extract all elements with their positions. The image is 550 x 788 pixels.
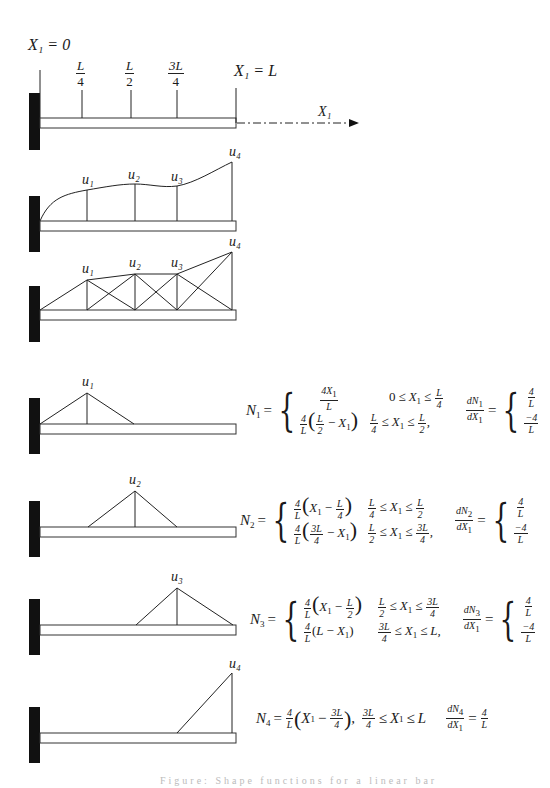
- equals-sign: =: [468, 710, 476, 727]
- node-label-u3: u₃: [171, 569, 183, 585]
- dn2-dx1: dN2dX1: [455, 505, 473, 536]
- left-brace: {: [273, 501, 290, 541]
- tick-den: 4: [173, 74, 180, 89]
- node-label-u4: u₄: [229, 144, 241, 160]
- n2-case-2-expr: 4L(3L4−X1): [293, 520, 357, 546]
- node-label-u2: u₂: [129, 255, 141, 271]
- dn4-value: 4L: [481, 707, 488, 730]
- fixed-wall: [29, 707, 40, 763]
- equals-sign: =: [477, 512, 485, 529]
- label-x1-axis: X₁: [318, 104, 331, 120]
- tick-num: L: [125, 58, 134, 74]
- fixed-wall: [29, 196, 40, 252]
- n2-case-2: 4L(3L4−X1) L2≤X1≤3L4,: [293, 522, 433, 544]
- dn3-cases: 4L −4L: [520, 595, 536, 644]
- n2-cases: 4L(X1−L4) L4≤X1≤L2 4L(3L4−X1) L2≤X1≤3L4,: [293, 497, 433, 544]
- ramp-function-n4: [177, 673, 232, 733]
- n4-lhs: N4: [256, 710, 271, 728]
- tick-label-half: L2: [124, 58, 135, 89]
- equals-sign: =: [274, 710, 282, 727]
- shape-function-n3-diagram: [29, 588, 236, 655]
- n3-cases: 4L(X1−L2) L2≤X1≤3L4 4L(L−X1) 3L4≤X1≤L,: [303, 596, 441, 643]
- equation-n3: N3 = { 4L(X1−L2) L2≤X1≤3L4 4L(L−X1) 3L4≤…: [250, 595, 536, 644]
- beam: [40, 310, 236, 320]
- n1-case-1: 4X1L 0≤X1≤L4: [299, 387, 444, 409]
- beam: [40, 221, 236, 231]
- node-label-u3: u₃: [171, 169, 183, 185]
- tick-den: 4: [77, 74, 84, 89]
- n2-case-2-cond: L2≤X1≤3L4,: [367, 522, 433, 545]
- dn4-dx1: dN4dX1: [446, 703, 464, 734]
- fixed-wall: [29, 398, 40, 454]
- equals-sign: =: [264, 402, 272, 419]
- n1-cases: 4X1L 0≤X1≤L4 4L(L2−X1) L4≤X1≤L2,: [299, 387, 444, 434]
- equation-n4: N4 = 4L(X1−3L4), 3L4≤X1≤L dN4dX1 = 4L: [256, 703, 489, 734]
- dn2-cases: 4L −4L: [513, 496, 529, 545]
- equals-sign: =: [268, 611, 276, 628]
- n3-lhs: N3: [250, 611, 265, 629]
- n1-case-1-cond: 0≤X1≤L4: [389, 387, 444, 410]
- equals-sign: =: [488, 402, 496, 419]
- n3-case-1-expr: 4L(X1−L2): [303, 594, 363, 620]
- fixed-wall: [29, 93, 40, 150]
- label-x1-L: X₁ = L: [234, 62, 277, 80]
- tick-num: 3L: [168, 58, 184, 74]
- n3-case-1: 4L(X1−L2) L2≤X1≤3L4: [303, 596, 441, 618]
- shape-function-n2-diagram: [29, 491, 236, 557]
- n4-cond: 3L4≤X1≤L: [361, 707, 426, 730]
- shape-function-n4-diagram: [29, 673, 236, 763]
- equals-sign: =: [485, 611, 493, 628]
- equation-n1: N1 = { 4X1L 0≤X1≤L4 4L(L2−X1) L4≤X1≤L2, …: [246, 386, 539, 435]
- node-label-u2: u₂: [128, 167, 140, 183]
- beam: [40, 625, 236, 635]
- n2-lhs: N2: [240, 512, 255, 530]
- hat-n4-left: [177, 252, 232, 310]
- figure-caption: Figure: Shape functions for a linear bar: [160, 775, 437, 786]
- fixed-wall: [29, 501, 40, 557]
- dn1-cases: 4L −4L: [523, 386, 539, 435]
- hat-n3-right: [177, 274, 232, 310]
- dn3-dx1: dN3dX1: [463, 604, 481, 635]
- hat-function-n2: [88, 491, 177, 527]
- tick-label-quarter: L4: [75, 58, 86, 89]
- node-label-u1: u₁: [82, 374, 94, 390]
- n3-case-2: 4L(L−X1) 3L4≤X1≤L,: [303, 621, 441, 643]
- node-label-u4: u₄: [229, 234, 241, 250]
- tick-den: 2: [126, 74, 133, 89]
- shape-function-n1-diagram: [29, 393, 236, 454]
- left-brace: {: [503, 391, 520, 431]
- n1-lhs: N1: [246, 402, 261, 420]
- n1-case-2-cond: L4≤X1≤L2,: [369, 412, 430, 435]
- node-label-u2: u₂: [129, 472, 141, 488]
- n3-case-2-expr: 4L(L−X1): [303, 621, 363, 644]
- tick-num: L: [76, 58, 85, 74]
- node-label-u1: u₁: [82, 261, 94, 277]
- fixed-wall: [29, 599, 40, 655]
- node-label-u1: u₁: [82, 172, 94, 188]
- n2-case-1-cond: L4≤X1≤L2: [367, 497, 425, 520]
- dn1-dx1: dN1dX1: [466, 395, 484, 426]
- n4-expr: 4L(X1−3L4),: [285, 707, 355, 730]
- left-brace: {: [283, 600, 300, 640]
- node-label-u4: u₄: [229, 656, 241, 672]
- beam: [40, 424, 236, 434]
- beam: [40, 527, 236, 537]
- left-brace: {: [279, 391, 296, 431]
- n3-case-1-cond: L2≤X1≤3L4: [377, 596, 440, 619]
- hat-n1-right: [87, 280, 135, 310]
- fixed-wall: [29, 286, 40, 342]
- left-brace: {: [492, 501, 509, 541]
- hat-function-n3: [136, 588, 233, 625]
- n3-case-2-cond: 3L4≤X1≤L,: [377, 621, 441, 644]
- beam: [40, 733, 236, 743]
- node-label-u3: u₃: [171, 255, 183, 271]
- equals-sign: =: [258, 512, 266, 529]
- tick-label-three-quarter: 3L4: [167, 58, 185, 89]
- n1-case-2-expr: 4L(L2−X1): [299, 410, 359, 436]
- n2-case-1: 4L(X1−L4) L4≤X1≤L2: [293, 497, 433, 519]
- equation-n2: N2 = { 4L(X1−L4) L4≤X1≤L2 4L(3L4−X1) L2≤…: [240, 496, 529, 545]
- label-x1-zero: X₁ = 0: [28, 36, 70, 54]
- left-brace: {: [500, 600, 517, 640]
- n1-case-2: 4L(L2−X1) L4≤X1≤L2,: [299, 412, 444, 434]
- beam: [40, 118, 236, 128]
